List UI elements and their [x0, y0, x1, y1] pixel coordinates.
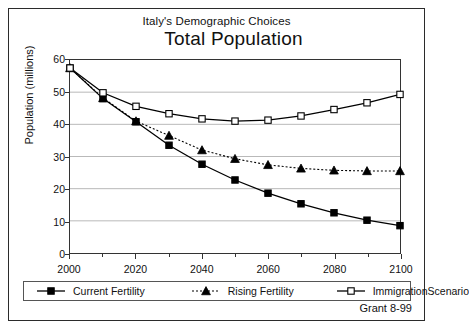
series-0 [67, 65, 403, 229]
x-tick-mark [335, 254, 336, 259]
chart-title: Total Population [9, 28, 424, 50]
legend-item-1[interactable]: Rising Fertility [191, 285, 294, 297]
data-point-marker [198, 146, 207, 154]
data-point-marker [67, 65, 73, 71]
data-point-marker [265, 117, 271, 123]
x-tick-mark [301, 254, 302, 257]
open-square-icon [336, 285, 366, 297]
x-tick-mark [102, 254, 103, 257]
x-tick-mark [368, 254, 369, 257]
data-point-marker [331, 106, 337, 112]
data-point-marker [364, 217, 370, 223]
legend-label: ImmigrationScenario [373, 285, 469, 297]
x-tick-mark [401, 254, 402, 259]
data-point-marker [265, 190, 271, 196]
x-tick-label: 2040 [182, 263, 222, 275]
x-tick-mark [202, 254, 203, 259]
series-2 [67, 65, 403, 124]
y-tick-label: 30 [43, 151, 65, 163]
data-point-marker [133, 103, 139, 109]
y-axis-ticks: 0102030405060 [39, 59, 65, 254]
data-point-marker [331, 210, 337, 216]
series-line [70, 68, 400, 226]
y-tick-label: 60 [43, 53, 65, 65]
data-point-marker [100, 90, 106, 96]
x-tick-label: 2100 [381, 263, 421, 275]
data-point-marker [165, 131, 174, 139]
x-tick-mark [235, 254, 236, 257]
data-point-marker [364, 100, 370, 106]
data-point-marker [232, 118, 238, 124]
data-point-marker [166, 142, 172, 148]
y-tick-label: 0 [43, 248, 65, 260]
x-tick-mark [169, 254, 170, 257]
data-point-marker [397, 91, 403, 97]
x-tick-label: 2020 [115, 263, 155, 275]
data-point-marker [298, 201, 304, 207]
data-point-marker [348, 288, 354, 294]
plot-area [69, 59, 401, 254]
chart-subtitle: Italy's Demographic Choices [9, 15, 424, 27]
x-tick-mark [135, 254, 136, 259]
series-line [70, 68, 400, 121]
data-point-marker [166, 111, 172, 117]
x-tick-label: 2000 [49, 263, 89, 275]
y-tick-label: 20 [43, 183, 65, 195]
figure-credit: Grant 8-99 [359, 302, 412, 314]
data-series-layer [70, 60, 400, 253]
legend-item-0[interactable]: Current Fertility [36, 285, 145, 297]
legend-label: Rising Fertility [228, 285, 294, 297]
filled-square-icon [36, 285, 66, 297]
legend-label: Current Fertility [73, 285, 145, 297]
data-point-marker [199, 116, 205, 122]
data-point-marker [298, 113, 304, 119]
data-point-marker [264, 161, 273, 169]
x-axis-ticks: 200020202040206020802100 [69, 254, 401, 276]
y-axis-label: Population (millions) [23, 20, 35, 170]
data-point-marker [48, 288, 54, 294]
x-tick-mark [268, 254, 269, 259]
data-point-marker [232, 177, 238, 183]
chart-legend: Current FertilityRising FertilityImmigra… [23, 281, 411, 301]
y-tick-label: 10 [43, 216, 65, 228]
filled-triangle-icon [191, 285, 221, 297]
x-tick-mark [69, 254, 70, 259]
x-tick-label: 2080 [315, 263, 355, 275]
x-tick-label: 2060 [248, 263, 288, 275]
y-tick-label: 50 [43, 86, 65, 98]
data-point-marker [199, 161, 205, 167]
chart-figure: Italy's Demographic Choices Total Popula… [8, 8, 425, 321]
data-point-marker [397, 222, 403, 228]
y-tick-label: 40 [43, 118, 65, 130]
legend-item-2[interactable]: ImmigrationScenario [336, 285, 469, 297]
